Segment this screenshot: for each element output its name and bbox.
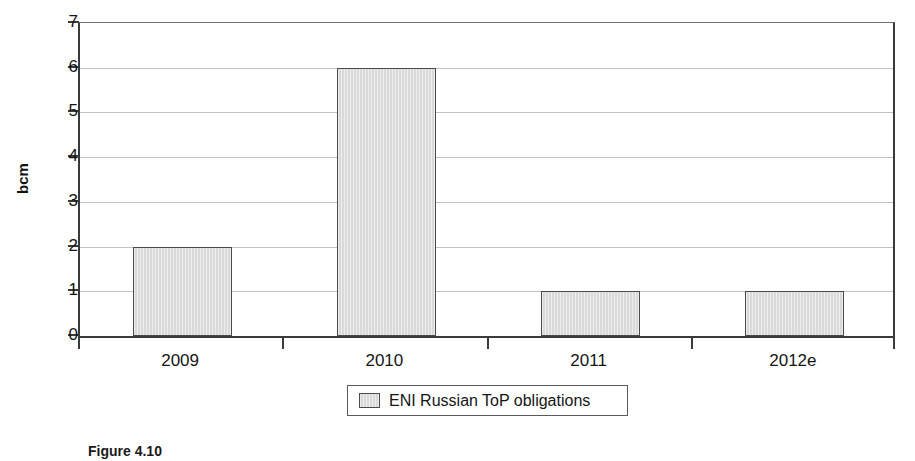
x-axis: 2009201020112012e xyxy=(78,338,895,384)
x-tick-mark xyxy=(78,338,80,349)
bar xyxy=(133,247,232,336)
x-tick-label: 2010 xyxy=(365,351,403,371)
y-tick-label: 6 xyxy=(22,57,78,77)
chart-legend: ENI Russian ToP obligations xyxy=(347,385,628,416)
x-tick-label: 2009 xyxy=(161,351,199,371)
bar xyxy=(745,291,844,336)
y-tick-label: 1 xyxy=(22,280,78,300)
x-tick-mark xyxy=(893,338,895,349)
legend-entry-label: ENI Russian ToP obligations xyxy=(389,392,590,410)
y-tick-label: 2 xyxy=(22,236,78,256)
y-axis-ticks: 01234567 xyxy=(0,0,78,361)
y-tick-label: 4 xyxy=(22,146,78,166)
gridline xyxy=(80,112,893,113)
gridline xyxy=(80,157,893,158)
bar xyxy=(337,68,436,336)
x-tick-label: 2011 xyxy=(570,351,607,371)
y-tick-label: 5 xyxy=(22,101,78,121)
y-tick-label: 3 xyxy=(22,191,78,211)
x-tick-mark xyxy=(691,338,693,349)
gridline xyxy=(80,202,893,203)
figure-caption: Figure 4.10 xyxy=(88,443,162,459)
x-tick-mark xyxy=(487,338,489,349)
bar-chart-figure: bcm 01234567 2009201020112012e ENI Russi… xyxy=(0,0,915,461)
plot-area xyxy=(78,22,895,338)
legend-swatch-icon xyxy=(359,393,380,408)
y-tick-label: 7 xyxy=(22,12,78,32)
x-tick-mark xyxy=(282,338,284,349)
bar xyxy=(541,291,640,336)
x-tick-label: 2012e xyxy=(769,351,816,371)
gridline xyxy=(80,68,893,69)
y-tick-label: 0 xyxy=(22,325,78,345)
